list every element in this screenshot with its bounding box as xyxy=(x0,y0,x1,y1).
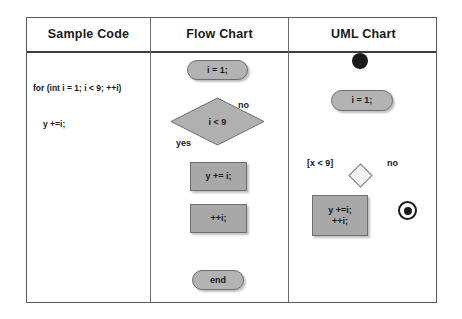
uml-decision-diamond-icon xyxy=(348,163,373,188)
uml-edge-label-no: no xyxy=(387,158,398,168)
flow-action-increment: ++i; xyxy=(190,204,247,233)
code-line-2: y +=i; xyxy=(33,118,148,130)
figure-root: Sample Code Flow Chart UML Chart for (in… xyxy=(0,0,462,319)
uml-action-node: y +=i; ++i; xyxy=(312,195,368,236)
flow-edge-label-no: no xyxy=(238,100,249,110)
uml-initial-action: i = 1; xyxy=(331,90,393,111)
flow-end-node: end xyxy=(192,270,244,290)
header-flow-chart: Flow Chart xyxy=(151,18,288,51)
flow-edge-label-yes: yes xyxy=(176,138,191,148)
flow-start-node: i = 1; xyxy=(187,60,248,80)
sample-code-block: for (int i = 1; i < 9; ++i) y +=i; xyxy=(33,58,148,154)
column-divider-1 xyxy=(150,18,151,302)
uml-guard-label: [x < 9] xyxy=(307,158,333,168)
flow-action-body: y += i; xyxy=(190,162,247,191)
header-sample-code: Sample Code xyxy=(27,18,150,51)
code-line-1: for (int i = 1; i < 9; ++i) xyxy=(33,82,148,94)
column-divider-2 xyxy=(288,18,289,302)
header-uml-chart: UML Chart xyxy=(289,18,438,51)
uml-final-node-icon xyxy=(398,201,417,220)
uml-initial-node-icon xyxy=(352,53,368,69)
uml-action-line-1: y +=i; xyxy=(328,205,352,216)
uml-action-line-2: ++i; xyxy=(332,216,348,227)
